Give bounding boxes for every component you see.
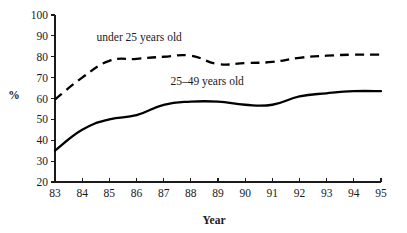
chart-container: 2030405060708090100 83848586878889909192… [0,0,407,233]
x-axis-tick-label: 92 [294,187,306,199]
y-axis-tick-label: 30 [37,155,49,167]
y-axis-title: % [8,89,20,101]
series-label-under-25: under 25 years old [97,31,183,44]
y-axis-tick-label: 50 [37,113,49,125]
x-axis-tick-label: 88 [185,187,197,199]
x-axis-tick-label: 87 [158,187,170,199]
y-axis-tick-label: 60 [37,93,49,105]
line-chart: 2030405060708090100 83848586878889909192… [0,0,407,233]
y-axis-tick-label: 90 [37,30,49,42]
x-axis-tick-label: 89 [212,187,224,199]
x-axis-tick-label: 83 [49,187,61,199]
series-label-25-49: 25–49 years old [170,75,244,88]
x-axis-tick-label: 93 [321,187,333,199]
y-axis-tick-label: 40 [37,134,49,146]
x-axis-tick-label: 84 [76,187,88,199]
x-axis-tick-label: 85 [104,187,116,199]
x-axis-tick-label: 95 [375,187,387,199]
y-axis-tick-group: 2030405060708090100 [31,9,55,188]
x-axis-tick-label: 90 [239,187,251,199]
x-axis-tick-label: 91 [267,187,279,199]
y-axis-tick-label: 100 [31,9,49,21]
x-axis-tick-group: 83848586878889909192939495 [49,178,387,199]
y-axis-tick-label: 70 [37,72,49,84]
x-axis-title: Year [203,214,226,226]
series-line-25-49 [55,91,381,151]
y-axis-tick-label: 80 [37,51,49,63]
y-axis-tick-label: 20 [37,176,49,188]
x-axis-tick-label: 94 [348,187,360,199]
x-axis-tick-label: 86 [131,187,143,199]
